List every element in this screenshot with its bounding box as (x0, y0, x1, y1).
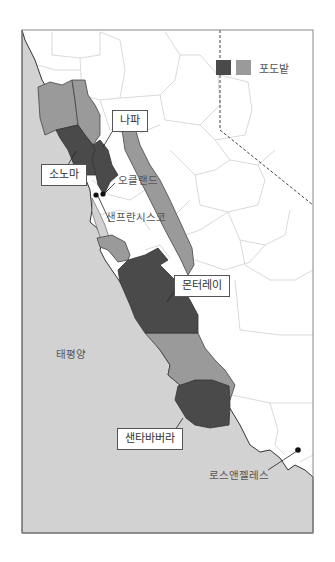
city-dot-los-angeles (295, 447, 301, 453)
california-vineyard-map (0, 0, 335, 562)
label-monterey: 몬터레이 (174, 275, 230, 297)
legend-swatch-dark (216, 60, 231, 75)
label-san-francisco: 샌프란시스코 (106, 209, 166, 224)
legend-swatch-light (236, 60, 251, 75)
label-oakland: 오클랜드 (118, 172, 158, 187)
label-sonoma: 소노마 (41, 164, 87, 186)
label-santa-barbara: 샌타바버라 (117, 428, 183, 450)
legend-label: 포도밭 (259, 60, 289, 76)
label-pacific-ocean: 태평양 (56, 346, 86, 361)
label-napa: 나파 (112, 110, 148, 132)
city-dot-oakland (100, 191, 105, 196)
label-los-angeles: 로스앤젤레스 (209, 467, 269, 482)
city-dot-san-francisco (93, 192, 98, 197)
